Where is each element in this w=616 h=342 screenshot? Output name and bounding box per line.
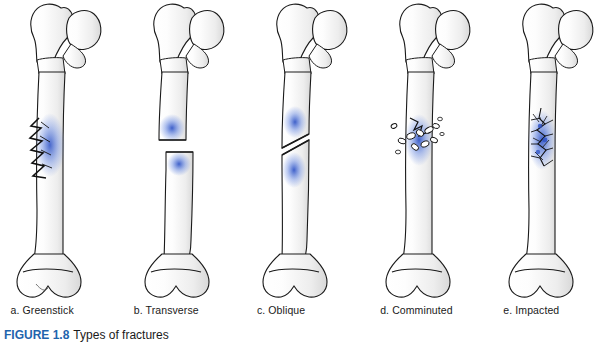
bone-illustration-row bbox=[0, 0, 616, 300]
bone-panel-transverse bbox=[126, 0, 244, 300]
panel-labels-row: a. Greenstick b. Transverse c. Oblique d… bbox=[0, 303, 616, 325]
figure-caption-number: FIGURE 1.8 bbox=[4, 328, 69, 342]
bone-panel-impacted bbox=[495, 0, 613, 300]
comminuted-bone-illustration bbox=[372, 0, 490, 300]
panel-label-oblique: c. Oblique bbox=[249, 303, 367, 317]
bone-panel-oblique bbox=[249, 0, 367, 300]
proximal-femur-head bbox=[523, 4, 593, 74]
panel-label-transverse: b. Transverse bbox=[126, 303, 244, 317]
figure-caption: FIGURE 1.8Types of fractures bbox=[4, 328, 169, 342]
oblique-bone-illustration bbox=[249, 0, 367, 300]
impacted-bone-illustration bbox=[495, 0, 613, 300]
proximal-femur-head bbox=[277, 4, 347, 74]
proximal-femur-head bbox=[30, 4, 100, 74]
proximal-femur-head bbox=[154, 4, 224, 74]
bone-panel-greenstick bbox=[3, 0, 121, 300]
panel-label-impacted: e. Impacted bbox=[495, 303, 613, 317]
distal-femur-condyles bbox=[386, 254, 450, 297]
greenstick-fracture-zone bbox=[30, 113, 65, 178]
proximal-femur-head bbox=[400, 4, 470, 74]
distal-femur-condyles bbox=[145, 254, 209, 297]
distal-femur-condyles bbox=[17, 254, 81, 297]
panel-label-greenstick: a. Greenstick bbox=[3, 303, 121, 317]
greenstick-bone-illustration bbox=[3, 0, 121, 300]
bone-panel-comminuted bbox=[372, 0, 490, 300]
distal-femur-condyles bbox=[509, 254, 573, 297]
comminuted-fracture-fragments bbox=[391, 114, 445, 166]
figure-caption-text: Types of fractures bbox=[73, 328, 168, 342]
distal-femur-condyles bbox=[263, 254, 327, 297]
panel-label-comminuted: d. Comminuted bbox=[372, 303, 490, 317]
transverse-bone-illustration bbox=[126, 0, 244, 300]
